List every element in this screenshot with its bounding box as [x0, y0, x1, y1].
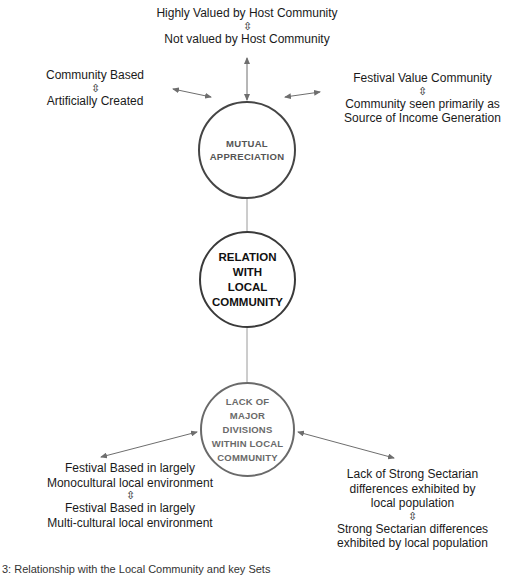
pole-community-based: Community Based [46, 68, 144, 82]
pole-monocultural-line-2: Monocultural local environment [0, 476, 260, 491]
pole-income-line-2: Source of Income Generation [330, 111, 515, 126]
pole-strong-sectarian-line-1: Strong Sectarian differences [315, 522, 510, 537]
dimension-host-valuation: Highly Valued by Host Community ⇳ Not va… [140, 6, 354, 46]
pole-highly-valued: Highly Valued by Host Community [156, 6, 337, 20]
node-mutual-appreciation-label: MUTUAL APPRECIATION [210, 137, 285, 163]
pole-festival-value-community: Festival Value Community [353, 71, 492, 85]
arrow-right [285, 92, 320, 97]
swap-arrows-icon: ⇳ [315, 511, 510, 522]
swap-arrows-icon: ⇳ [140, 21, 354, 32]
arrow-bottom-right [298, 432, 394, 458]
pole-lack-sectarian-line-3: local population [315, 496, 510, 511]
pole-multicultural-line-1: Festival Based in largely [0, 501, 260, 516]
dimension-cultural-environment: Festival Based in largely Monocultural l… [0, 461, 260, 530]
arrow-left [173, 89, 211, 97]
dimension-sectarian-differences: Lack of Strong Sectarian differences exh… [315, 467, 510, 551]
pole-artificially-created: Artificially Created [47, 94, 144, 108]
pole-strong-sectarian-line-2: exhibited by local population [315, 536, 510, 551]
node-lack-of-divisions-label: LACK OF MAJOR DIVISIONS WITHIN LOCAL COM… [212, 395, 284, 465]
pole-not-valued: Not valued by Host Community [164, 32, 329, 46]
node-relation-with-local-community: RELATION WITH LOCAL COMMUNITY [199, 231, 296, 328]
pole-multicultural-line-2: Multi-cultural local environment [0, 516, 260, 531]
swap-arrows-icon: ⇳ [20, 83, 170, 94]
pole-lack-sectarian-line-1: Lack of Strong Sectarian [315, 467, 510, 482]
dimension-community-origin: Community Based ⇳ Artificially Created [20, 68, 170, 108]
figure-caption: 3: Relationship with the Local Community… [2, 562, 270, 576]
node-relation-label: RELATION WITH LOCAL COMMUNITY [212, 250, 283, 310]
arrow-bottom-left [101, 432, 197, 457]
dimension-community-value: Festival Value Community ⇳ Community see… [330, 71, 515, 126]
pole-lack-sectarian-line-2: differences exhibited by [315, 482, 510, 497]
swap-arrows-icon: ⇳ [0, 490, 260, 501]
node-mutual-appreciation: MUTUAL APPRECIATION [198, 101, 296, 199]
pole-monocultural-line-1: Festival Based in largely [0, 461, 260, 476]
swap-arrows-icon: ⇳ [330, 86, 515, 97]
pole-income-line-1: Community seen primarily as [330, 97, 515, 112]
